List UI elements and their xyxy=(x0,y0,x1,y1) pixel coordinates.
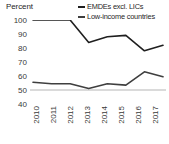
x-axis-tick-label: 2013 xyxy=(83,106,92,124)
legend-item-emdes: EMDEs excl. LICs xyxy=(78,2,155,11)
x-axis-tick-label: 2011 xyxy=(49,106,58,123)
x-axis-labels: 2010 2011 2012 2013 2014 2015 2016 2017 xyxy=(30,106,166,144)
x-axis-tick-label: 2014 xyxy=(100,106,109,124)
legend-item-label: EMDEs excl. LICs xyxy=(87,2,143,11)
series-line-2 xyxy=(33,72,163,89)
x-axis-tick-label: 2016 xyxy=(134,106,143,124)
y-axis-tick-label: 40 xyxy=(18,100,27,109)
y-axis-tick-label: 70 xyxy=(18,58,27,67)
y-axis-tick-label: 80 xyxy=(18,44,27,53)
y-axis-tick-label: 90 xyxy=(18,30,27,39)
x-axis-tick-label: 2015 xyxy=(117,106,126,124)
series-canvas xyxy=(30,20,166,104)
y-axis-tick-label: 100 xyxy=(14,16,27,25)
x-axis-tick-label: 2017 xyxy=(151,106,160,124)
y-axis-tick-label: 60 xyxy=(18,72,27,81)
x-axis-tick-label: 2010 xyxy=(32,106,41,124)
legend-line-swatch-icon xyxy=(78,16,85,18)
chart-container: Percent EMDEs excl. LICs Low-income coun… xyxy=(0,0,169,144)
x-axis-tick-label: 2012 xyxy=(66,106,75,124)
chart-legend: EMDEs excl. LICs Low-income countries xyxy=(78,2,155,21)
legend-line-swatch-icon xyxy=(78,6,85,8)
y-axis-labels: 100 90 80 70 60 50 40 xyxy=(0,0,30,144)
plot-area xyxy=(30,20,166,104)
series-line-1 xyxy=(33,20,163,51)
y-axis-tick-label: 50 xyxy=(18,86,27,95)
